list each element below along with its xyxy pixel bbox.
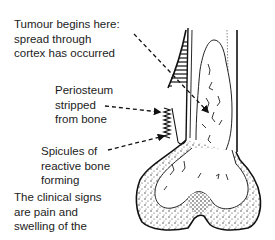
label-line: stripped [55,98,113,113]
arrow-tumour [134,34,208,112]
arrow-spicules [108,136,164,150]
label-periosteum: Periosteum stripped from bone [55,83,113,127]
label-line: Periosteum [55,83,113,98]
arrow-periosteum [105,106,160,112]
label-clinical-signs: The clinical signs are pain and swelling… [14,190,102,234]
label-spicules: Spicules of reactive bone forming [41,144,110,188]
label-line: spread through [14,32,120,47]
femur-condyles [136,140,260,230]
label-line: swelling of the [14,219,102,234]
label-line: cortex has occurred [14,46,120,61]
label-line: reactive bone [41,159,110,174]
label-tumour-origin: Tumour begins here: spread through corte… [14,17,120,61]
label-line: forming [41,173,110,188]
label-line: Spicules of [41,144,110,159]
label-line: Tumour begins here: [14,17,120,32]
leader-arrows [105,34,208,150]
label-line: The clinical signs [14,190,102,205]
label-line: from bone [55,112,113,127]
label-line: are pain and [14,205,102,220]
